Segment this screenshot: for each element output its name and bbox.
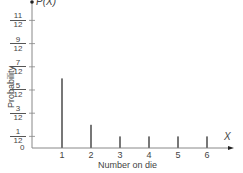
y-tick-label: 112 [10, 128, 26, 144]
x-axis-symbol: X [224, 131, 231, 142]
y-tick-label: 512 [10, 82, 26, 98]
x-tick-label: 5 [172, 150, 184, 160]
x-tick-label: 2 [85, 150, 97, 160]
x-tick-label: 4 [143, 150, 155, 160]
x-tick-label: 6 [201, 150, 213, 160]
y-tick-label: 312 [10, 105, 26, 121]
fraction-denominator: 12 [10, 44, 26, 52]
x-axis-label: Number on die [98, 160, 157, 170]
bar-3 [119, 136, 121, 148]
plot-area [0, 0, 243, 173]
fraction-denominator: 12 [10, 90, 26, 98]
bar-2 [90, 125, 92, 148]
fraction-denominator: 12 [10, 21, 26, 29]
y-tick-label: 1112 [10, 12, 26, 28]
fraction-numerator: 9 [10, 36, 26, 45]
probability-distribution-chart: P(X) X Probability 1123125127129121112 0… [0, 0, 243, 173]
bar-1 [61, 78, 63, 148]
y-axis-symbol: P(X) [36, 0, 56, 7]
fraction-denominator: 12 [10, 114, 26, 122]
y-tick-label: 712 [10, 59, 26, 75]
fraction-denominator: 12 [10, 67, 26, 75]
bar-6 [206, 136, 208, 148]
x-axis-arrow-icon [228, 146, 234, 150]
x-tick-label: 3 [114, 150, 126, 160]
y-tick-zero: 0 [20, 143, 24, 152]
y-tick-label: 912 [10, 36, 26, 52]
x-tick-label: 1 [56, 150, 68, 160]
bar-4 [148, 136, 150, 148]
y-axis-arrow-icon [30, 0, 34, 4]
bar-5 [177, 136, 179, 148]
bars [61, 78, 208, 148]
